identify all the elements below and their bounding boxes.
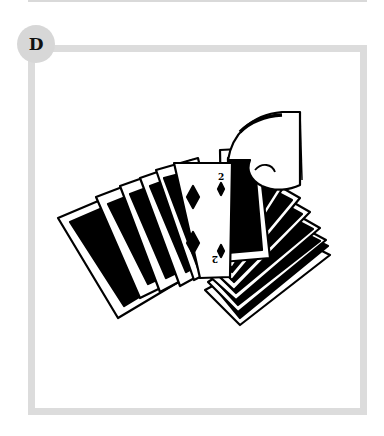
card-rank-bottom: 2 [212,254,218,264]
card-fan-illustration: 2 2 [0,0,384,436]
card-rank-top: 2 [218,172,224,182]
